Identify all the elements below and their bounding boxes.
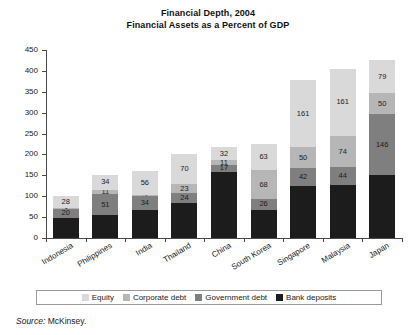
y-tick bbox=[42, 71, 46, 72]
legend-swatch-icon bbox=[276, 294, 283, 301]
source-text: McKinsey. bbox=[48, 316, 87, 326]
segment-government: 24 bbox=[171, 193, 197, 203]
chart-title: Financial Depth, 2004 bbox=[0, 8, 416, 20]
segment-equity: 79 bbox=[369, 60, 395, 93]
segment-government: 20 bbox=[53, 209, 79, 217]
y-tick-label: 300 bbox=[10, 109, 38, 117]
y-tick bbox=[42, 154, 46, 155]
bar-indonesia[interactable]: 20328 bbox=[53, 196, 79, 238]
segment-government: 17 bbox=[211, 165, 237, 172]
y-axis-line bbox=[46, 50, 47, 238]
bar-singapore[interactable]: 4250161 bbox=[290, 80, 316, 238]
legend-item-corporate-debt[interactable]: Corporate debt bbox=[123, 293, 186, 302]
segment-corporate: 68 bbox=[251, 170, 277, 198]
legend-label: Bank deposits bbox=[286, 293, 336, 302]
chart-subtitle: Financial Assets as a Percent of GDP bbox=[0, 20, 416, 32]
segment-equity: 63 bbox=[251, 144, 277, 170]
segment-equity: 161 bbox=[290, 80, 316, 147]
y-tick bbox=[42, 113, 46, 114]
segment-government: 51 bbox=[92, 194, 118, 215]
x-tick bbox=[86, 238, 87, 242]
bar-south-korea[interactable]: 266863 bbox=[251, 144, 277, 238]
x-tick bbox=[204, 238, 205, 242]
y-tick bbox=[42, 175, 46, 176]
x-tick bbox=[283, 238, 284, 242]
chart-legend: EquityCorporate debtGovernment debtBank … bbox=[36, 290, 382, 305]
segment-deposits bbox=[251, 210, 277, 238]
segment-deposits bbox=[92, 215, 118, 238]
source-prefix: Source: bbox=[16, 316, 45, 326]
y-tick bbox=[42, 134, 46, 135]
bar-japan[interactable]: 1465079 bbox=[369, 60, 395, 238]
segment-government: 44 bbox=[330, 167, 356, 185]
segment-equity: 34 bbox=[92, 175, 118, 189]
segment-deposits bbox=[369, 175, 395, 238]
legend-item-government-debt[interactable]: Government debt bbox=[195, 293, 267, 302]
segment-equity: 161 bbox=[330, 69, 356, 136]
segment-government: 42 bbox=[290, 168, 316, 186]
legend-item-bank-deposits[interactable]: Bank deposits bbox=[276, 293, 336, 302]
chart-title-block: Financial Depth, 2004 Financial Assets a… bbox=[0, 8, 416, 31]
y-tick bbox=[42, 196, 46, 197]
y-tick-label: 0 bbox=[10, 234, 38, 242]
legend-item-equity[interactable]: Equity bbox=[82, 293, 114, 302]
segment-government: 34 bbox=[132, 196, 158, 210]
segment-government: 146 bbox=[369, 114, 395, 175]
legend-label: Equity bbox=[92, 293, 114, 302]
segment-deposits bbox=[211, 172, 237, 238]
x-tick bbox=[402, 238, 403, 242]
y-tick-label: 400 bbox=[10, 67, 38, 75]
segment-equity: 56 bbox=[132, 171, 158, 194]
y-tick-label: 150 bbox=[10, 171, 38, 179]
chart-container: Financial Depth, 2004 Financial Assets a… bbox=[0, 0, 416, 335]
segment-deposits bbox=[132, 210, 158, 238]
segment-deposits bbox=[290, 186, 316, 238]
x-tick bbox=[125, 238, 126, 242]
y-tick bbox=[42, 92, 46, 93]
bar-malaysia[interactable]: 4474161 bbox=[330, 69, 356, 238]
x-axis-line bbox=[46, 238, 402, 239]
x-tick bbox=[244, 238, 245, 242]
y-tick bbox=[42, 50, 46, 51]
segment-equity: 28 bbox=[53, 196, 79, 208]
segment-deposits bbox=[171, 203, 197, 238]
segment-corporate: 50 bbox=[290, 147, 316, 168]
y-tick-label: 100 bbox=[10, 192, 38, 200]
bar-thailand[interactable]: 242370 bbox=[171, 154, 197, 238]
bar-china[interactable]: 171132 bbox=[211, 147, 237, 238]
y-tick-label: 450 bbox=[10, 46, 38, 54]
legend-swatch-icon bbox=[82, 294, 89, 301]
legend-swatch-icon bbox=[123, 294, 130, 301]
plot-area: 050100150200250300350400450 203285111343… bbox=[46, 50, 402, 238]
y-tick-label: 350 bbox=[10, 88, 38, 96]
bar-india[interactable]: 34356 bbox=[132, 171, 158, 238]
segment-corporate: 23 bbox=[171, 184, 197, 194]
segment-deposits bbox=[53, 218, 79, 238]
segment-deposits bbox=[330, 185, 356, 238]
y-tick-label: 200 bbox=[10, 150, 38, 158]
x-tick bbox=[165, 238, 166, 242]
legend-swatch-icon bbox=[195, 294, 202, 301]
legend-label: Corporate debt bbox=[133, 293, 186, 302]
y-tick-label: 250 bbox=[10, 130, 38, 138]
y-tick bbox=[42, 217, 46, 218]
x-tick bbox=[362, 238, 363, 242]
segment-corporate: 50 bbox=[369, 93, 395, 114]
y-tick-label: 50 bbox=[10, 213, 38, 221]
bar-philippines[interactable]: 511134 bbox=[92, 175, 118, 238]
segment-equity: 70 bbox=[171, 154, 197, 183]
x-tick bbox=[323, 238, 324, 242]
segment-equity: 32 bbox=[211, 147, 237, 160]
segment-government: 26 bbox=[251, 199, 277, 210]
source-note: Source: McKinsey. bbox=[16, 316, 86, 326]
segment-corporate: 74 bbox=[330, 136, 356, 167]
x-tick bbox=[46, 238, 47, 242]
legend-label: Government debt bbox=[205, 293, 267, 302]
